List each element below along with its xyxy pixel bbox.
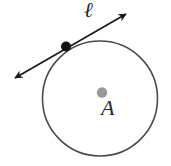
center-label-a: A [101, 97, 114, 119]
geometry-canvas [0, 0, 171, 166]
line-label-ell: ℓ [84, 0, 93, 21]
geometry-figure: ℓ A [0, 0, 171, 166]
tangent-point-dot [61, 42, 71, 52]
circle-outline [43, 41, 158, 156]
